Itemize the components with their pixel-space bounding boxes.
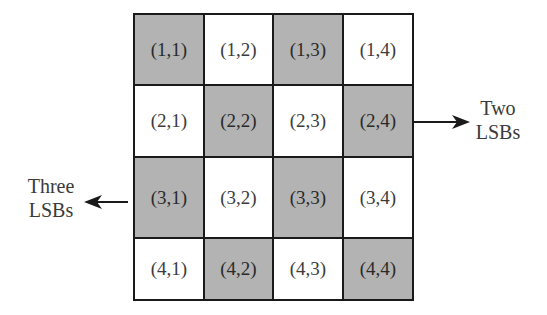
cell-4-3: (4,3) <box>274 239 344 299</box>
cell-2-3: (2,3) <box>274 86 344 158</box>
cell-4-4: (4,4) <box>344 239 412 299</box>
cell-2-1: (2,1) <box>135 86 205 158</box>
cell-1-1: (1,1) <box>135 15 205 86</box>
block-grid: (1,1) (1,2) (1,3) (1,4) (2,1) (2,2) (2,3… <box>133 13 414 301</box>
cell-3-1: (3,1) <box>135 158 205 239</box>
cell-3-2: (3,2) <box>205 158 274 239</box>
cell-3-3: (3,3) <box>274 158 344 239</box>
annotation-two-lsbs: Two LSBs <box>468 96 528 144</box>
cell-4-1: (4,1) <box>135 239 205 299</box>
cell-4-2: (4,2) <box>205 239 274 299</box>
cell-1-3: (1,3) <box>274 15 344 86</box>
cell-1-2: (1,2) <box>205 15 274 86</box>
arrow-left-icon <box>84 194 134 210</box>
annotation-three-lsbs-line2: LSBs <box>20 198 82 222</box>
cell-2-4: (2,4) <box>344 86 412 158</box>
annotation-two-lsbs-line2: LSBs <box>468 120 528 144</box>
annotation-three-lsbs: Three LSBs <box>20 174 82 222</box>
arrow-right-icon <box>414 114 470 130</box>
cell-3-4: (3,4) <box>344 158 412 239</box>
cell-2-2: (2,2) <box>205 86 274 158</box>
annotation-three-lsbs-line1: Three <box>20 174 82 198</box>
cell-1-4: (1,4) <box>344 15 412 86</box>
annotation-two-lsbs-line1: Two <box>468 96 528 120</box>
